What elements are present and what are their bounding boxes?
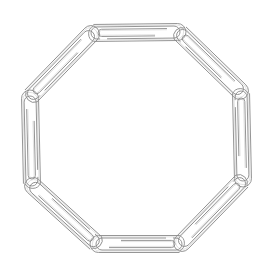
paperclip	[21, 90, 40, 189]
paperclip	[90, 236, 184, 253]
paperclip	[232, 88, 251, 187]
paperclip	[89, 23, 187, 41]
paperclip-ring	[0, 0, 272, 274]
paperclip-ring-image	[0, 0, 272, 274]
